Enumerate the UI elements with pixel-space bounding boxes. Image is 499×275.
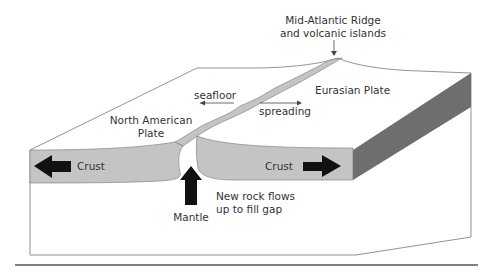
label-crust-right: Crust <box>265 160 293 172</box>
label-ridge-line2: and volcanic islands <box>280 27 386 39</box>
label-seafloor: seafloor <box>194 89 237 101</box>
label-north-american-line1: North American <box>110 114 193 126</box>
label-spreading: spreading <box>259 105 311 117</box>
label-north-american-line2: Plate <box>138 127 164 139</box>
label-new-rock-line1: New rock flows <box>216 190 295 202</box>
ridge-pointer-head <box>331 51 337 56</box>
label-crust-left: Crust <box>77 160 105 172</box>
label-ridge-line1: Mid-Atlantic Ridge <box>285 14 380 26</box>
label-mantle: Mantle <box>173 211 209 223</box>
seafloor-spreading-diagram: Mid-Atlantic Ridge and volcanic islands … <box>0 0 499 275</box>
label-new-rock-line2: up to fill gap <box>216 203 282 215</box>
label-eurasian-plate: Eurasian Plate <box>315 84 390 96</box>
